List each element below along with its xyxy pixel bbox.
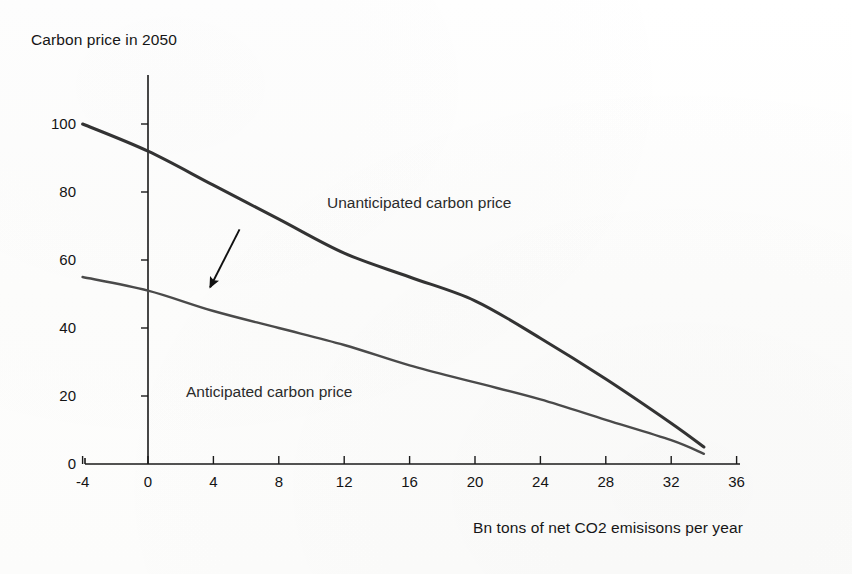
annotation-group [210,229,239,287]
series-line-anticipated [83,277,704,454]
downward-shift-arrow-icon [210,229,239,287]
data-series-group [83,124,704,454]
x-axis-ticks [83,456,737,464]
series-line-unanticipated [83,124,704,447]
chart-plot-area [0,0,852,574]
chart-page: Carbon price in 2050 Bn tons of net CO2 … [0,0,852,574]
axes-group [85,75,740,464]
y-axis-ticks [141,124,148,396]
